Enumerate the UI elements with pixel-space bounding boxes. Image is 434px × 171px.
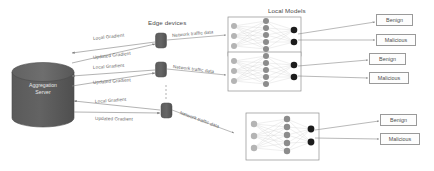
gradient-arrows-flow-3: [74, 101, 160, 113]
flow-3-updated-gradient-label: Updated Gradient: [95, 116, 133, 122]
output-box-malicious-1: Malicious: [376, 34, 416, 46]
output-box-benign-3: Benign: [380, 114, 417, 126]
edge-device-1: [156, 33, 167, 48]
edge-device-3: [161, 103, 172, 118]
aggregation-server-label: Aggregation Server: [12, 82, 74, 96]
output-arrows-model-2: [298, 60, 368, 78]
local-model-1: [228, 17, 301, 56]
ellipsis-dots-icon: [165, 85, 167, 99]
local-model-2: [228, 52, 301, 91]
server-label-line2: Server: [35, 89, 50, 95]
output-box-malicious-2: Malicious: [369, 72, 409, 84]
output-box-benign-1: Benign: [376, 14, 413, 26]
edge-devices-label: Edge devices: [148, 19, 186, 26]
local-model-3: [246, 113, 319, 160]
local-models-label: Local Models: [268, 7, 306, 14]
server-label-line1: Aggregation: [29, 82, 57, 88]
output-arrows-model-1: [298, 22, 375, 40]
output-box-malicious-3: Malicious: [380, 133, 420, 145]
diagram-canvas: Aggregation Server Edge devices Local Mo…: [0, 0, 434, 171]
edge-device-2: [156, 62, 167, 77]
output-arrows-model-3: [315, 121, 379, 139]
output-box-benign-2: Benign: [369, 53, 406, 65]
